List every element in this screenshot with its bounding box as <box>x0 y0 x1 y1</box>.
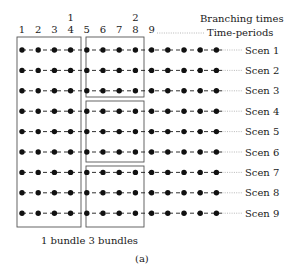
scenario-tree-diagram: Branching times Time-periods 123456789 1… <box>0 0 285 276</box>
time-node-dot <box>133 47 138 52</box>
time-node-dot <box>19 129 24 134</box>
time-node-dot <box>117 88 122 93</box>
time-node-dot <box>68 88 73 93</box>
time-node-dot <box>198 47 203 52</box>
time-node-dot <box>149 190 154 195</box>
time-node-dot <box>165 190 170 195</box>
time-node-dot <box>36 47 41 52</box>
time-node-dot <box>133 170 138 175</box>
time-node-dot <box>19 109 24 114</box>
time-node-dot <box>52 211 57 216</box>
scenario-label: Scen 3 <box>245 85 279 96</box>
time-node-dot <box>214 47 219 52</box>
time-node-dot <box>84 88 89 93</box>
time-node-dot <box>84 47 89 52</box>
period-label: 7 <box>116 24 122 35</box>
time-node-dot <box>133 88 138 93</box>
time-node-dot <box>84 190 89 195</box>
scenario-row: Scen 1 <box>19 45 279 56</box>
period-label: 4 <box>67 24 73 35</box>
scenario-label: Scen 6 <box>245 147 279 158</box>
time-periods-label: Time-periods <box>207 27 274 38</box>
scenario-rows: Scen 1Scen 2Scen 3Scen 4Scen 5Scen 6Scen… <box>19 45 279 219</box>
time-node-dot <box>100 47 105 52</box>
time-node-dot <box>214 68 219 73</box>
scenario-label: Scen 9 <box>245 208 279 219</box>
time-node-dot <box>68 170 73 175</box>
time-node-dot <box>149 88 154 93</box>
scenario-row: Scen 4 <box>19 106 279 117</box>
scenario-row: Scen 7 <box>19 167 279 178</box>
time-node-dot <box>165 47 170 52</box>
scenario-label: Scen 8 <box>245 187 279 198</box>
time-node-dot <box>100 170 105 175</box>
time-node-dot <box>198 170 203 175</box>
time-node-dot <box>165 88 170 93</box>
scenario-label: Scen 7 <box>245 167 279 178</box>
period-label: 2 <box>35 24 41 35</box>
time-node-dot <box>19 211 24 216</box>
bundle-box-stage2-1 <box>86 37 144 97</box>
time-node-dot <box>68 211 73 216</box>
time-node-dot <box>117 129 122 134</box>
time-node-dot <box>117 47 122 52</box>
branching-markers: 12 <box>67 12 138 23</box>
time-node-dot <box>181 47 186 52</box>
period-labels: 123456789 <box>19 24 155 35</box>
time-node-dot <box>181 149 186 154</box>
time-node-dot <box>84 129 89 134</box>
time-node-dot <box>198 109 203 114</box>
time-node-dot <box>19 190 24 195</box>
time-node-dot <box>117 211 122 216</box>
time-node-dot <box>214 170 219 175</box>
time-node-dot <box>36 190 41 195</box>
time-node-dot <box>19 68 24 73</box>
time-node-dot <box>36 211 41 216</box>
time-node-dot <box>181 88 186 93</box>
time-node-dot <box>117 149 122 154</box>
time-node-dot <box>149 109 154 114</box>
time-node-dot <box>149 47 154 52</box>
time-node-dot <box>198 68 203 73</box>
bundle-box-stage2-3 <box>86 166 144 227</box>
time-node-dot <box>84 149 89 154</box>
time-node-dot <box>36 170 41 175</box>
time-node-dot <box>149 129 154 134</box>
time-node-dot <box>100 211 105 216</box>
time-node-dot <box>165 149 170 154</box>
time-node-dot <box>198 149 203 154</box>
time-node-dot <box>133 190 138 195</box>
time-node-dot <box>52 68 57 73</box>
time-node-dot <box>52 88 57 93</box>
time-node-dot <box>181 190 186 195</box>
period-label: 3 <box>51 24 57 35</box>
time-node-dot <box>149 68 154 73</box>
time-node-dot <box>100 88 105 93</box>
time-node-dot <box>68 47 73 52</box>
time-node-dot <box>214 211 219 216</box>
branching-times-label: Branching times <box>200 13 284 24</box>
time-node-dot <box>133 211 138 216</box>
scenario-row: Scen 3 <box>19 85 279 96</box>
time-node-dot <box>68 109 73 114</box>
time-node-dot <box>133 68 138 73</box>
time-node-dot <box>198 129 203 134</box>
time-node-dot <box>36 129 41 134</box>
time-node-dot <box>100 190 105 195</box>
time-node-dot <box>52 190 57 195</box>
branching-marker: 1 <box>67 12 73 23</box>
period-label: 8 <box>132 24 138 35</box>
time-node-dot <box>52 149 57 154</box>
scenario-label: Scen 2 <box>245 65 279 76</box>
period-label: 1 <box>19 24 25 35</box>
time-node-dot <box>84 109 89 114</box>
scenario-label: Scen 4 <box>245 106 279 117</box>
time-node-dot <box>149 170 154 175</box>
time-node-dot <box>36 109 41 114</box>
time-node-dot <box>36 149 41 154</box>
time-node-dot <box>36 68 41 73</box>
time-node-dot <box>117 68 122 73</box>
time-node-dot <box>52 129 57 134</box>
time-node-dot <box>52 170 57 175</box>
time-node-dot <box>214 149 219 154</box>
